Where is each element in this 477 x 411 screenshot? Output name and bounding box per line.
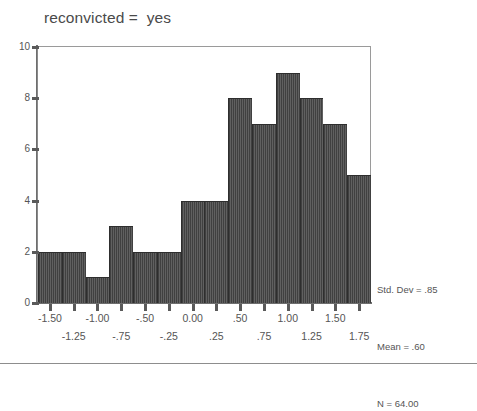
y-axis-label: 8 (6, 93, 30, 103)
x-axis-tick (287, 304, 290, 311)
sample-size-label: N = 64.00 (377, 394, 437, 411)
x-axis-tick (311, 304, 314, 311)
y-axis-label-text: 4 (8, 196, 30, 206)
y-axis-tick (32, 251, 39, 254)
x-axis-label: -.75 (99, 330, 143, 342)
statistics-annotation: Std. Dev = .85 Mean = .60 N = 64.00 (377, 242, 437, 411)
x-axis-tick (49, 304, 52, 311)
y-axis-label-text: 8 (8, 93, 30, 103)
histogram-bar (181, 201, 205, 303)
x-axis-label: .50 (218, 312, 262, 324)
x-axis-tick (120, 304, 123, 311)
x-axis-tick (96, 304, 99, 311)
histogram-bars (38, 47, 371, 303)
y-axis-label: 4 (6, 196, 30, 206)
x-axis-tick (144, 304, 147, 311)
histogram-bar (300, 98, 324, 303)
histogram-bar (347, 175, 371, 303)
y-axis-label-text: 2 (8, 247, 30, 257)
y-axis-label: 0 (6, 298, 30, 308)
y-axis-label-text: 6 (8, 144, 30, 154)
x-axis-label: -1.00 (75, 312, 119, 324)
histogram-bar (109, 226, 133, 303)
histogram-bar (133, 252, 157, 303)
histogram-bar (204, 201, 228, 303)
histogram-bar (62, 252, 86, 303)
y-axis-label: 10 (6, 42, 30, 52)
y-axis-tick (32, 200, 39, 203)
x-axis-tick (192, 304, 195, 311)
y-axis-label: 6 (6, 144, 30, 154)
page-title: reconvicted = yes (44, 9, 171, 27)
std-dev-label: Std. Dev = .85 (377, 280, 437, 299)
x-axis-label: -1.50 (28, 312, 72, 324)
histogram-bar (228, 98, 252, 303)
x-axis-label: 1.25 (290, 330, 334, 342)
y-axis-tick (32, 46, 39, 49)
x-axis-tick (263, 304, 266, 311)
x-axis-label: -1.25 (52, 330, 96, 342)
histogram-bar (276, 73, 300, 303)
histogram-bar (38, 252, 62, 303)
y-axis-label: 2 (6, 247, 30, 257)
x-axis-label: 1.50 (313, 312, 357, 324)
histogram-bar (86, 277, 110, 303)
histogram-bar (252, 124, 276, 303)
mean-label: Mean = .60 (377, 337, 437, 356)
footer-divider (0, 363, 477, 364)
x-axis-label: 0.00 (171, 312, 215, 324)
histogram-bar (157, 252, 181, 303)
x-axis-tick (73, 304, 76, 311)
y-axis-label-text: 10 (8, 42, 30, 52)
x-axis-tick (334, 304, 337, 311)
x-axis-label: 1.00 (266, 312, 310, 324)
x-axis-tick (358, 304, 361, 311)
x-axis-label: 1.75 (337, 330, 381, 342)
y-axis-tick (32, 97, 39, 100)
x-axis-label: -.50 (123, 312, 167, 324)
x-axis-label: .75 (242, 330, 286, 342)
x-axis-tick (168, 304, 171, 311)
x-axis-label: -.25 (147, 330, 191, 342)
histogram-bar (323, 124, 347, 303)
x-axis-tick (239, 304, 242, 311)
y-axis-tick (32, 302, 39, 305)
y-axis-tick (32, 148, 39, 151)
x-axis-label: .25 (194, 330, 238, 342)
y-axis-label-text: 0 (8, 298, 30, 308)
x-axis-tick (215, 304, 218, 311)
